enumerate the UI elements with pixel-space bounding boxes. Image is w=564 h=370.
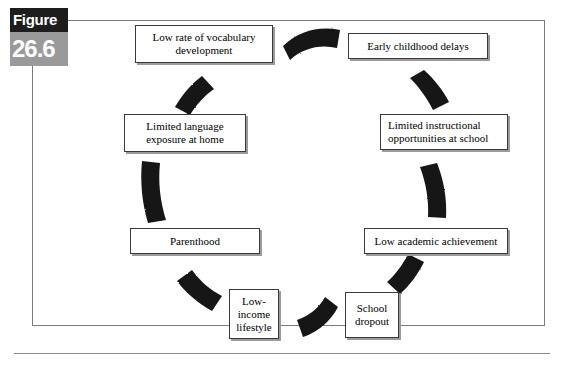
node-box-limited-language-exposure: Limited language exposure at home — [124, 114, 246, 152]
figure-label-word: Figure — [10, 8, 68, 32]
arrow-instruction-to-academic — [420, 163, 446, 218]
node-label-school-dropout: School dropout — [350, 302, 394, 328]
node-label-limited-instructional-opportunities: Limited instructional opportunities at s… — [388, 119, 503, 145]
node-box-early-childhood-delays: Early childhood delays — [348, 33, 488, 59]
node-box-school-dropout: School dropout — [345, 292, 399, 338]
figure-badge: Figure 26.6 — [10, 8, 68, 66]
arrow-exposure-to-vocabulary — [175, 76, 214, 115]
node-label-limited-language-exposure: Limited language exposure at home — [129, 120, 241, 146]
node-label-parenthood: Parenthood — [135, 235, 255, 248]
node-box-low-income-lifestyle: Low-income lifestyle — [229, 289, 279, 339]
arrow-academic-to-dropout — [387, 254, 424, 294]
arrow-parenthood-to-exposure — [141, 161, 166, 223]
node-label-early-childhood-delays: Early childhood delays — [353, 40, 483, 53]
node-label-vocabulary: Low rate of vocabulary development — [140, 31, 268, 57]
node-box-vocabulary: Low rate of vocabulary development — [135, 25, 273, 63]
arrow-lowincome-to-parenthood — [177, 270, 222, 311]
node-label-low-income-lifestyle: Low-income lifestyle — [234, 295, 274, 334]
node-label-low-academic-achievement: Low academic achievement — [369, 235, 503, 248]
figure-label-number: 26.6 — [10, 32, 68, 66]
arrow-early-to-instruction — [410, 70, 449, 110]
node-box-limited-instructional-opportunities: Limited instructional opportunities at s… — [380, 114, 508, 150]
node-box-low-academic-achievement: Low academic achievement — [364, 228, 508, 254]
arrow-vocabulary-to-early — [283, 29, 340, 60]
arrow-dropout-to-lowincome — [297, 297, 338, 337]
node-box-parenthood: Parenthood — [130, 228, 260, 254]
